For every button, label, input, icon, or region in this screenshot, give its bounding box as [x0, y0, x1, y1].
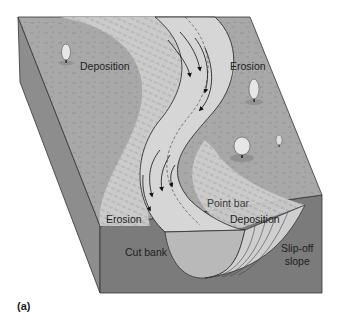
figure-caption: (a)	[17, 300, 30, 312]
label-deposition-lower-right: Deposition	[230, 214, 280, 225]
label-point-bar: Point bar	[207, 198, 249, 209]
block-diagram-svg	[0, 0, 347, 319]
label-slip-off-line2: slope	[281, 256, 314, 267]
label-slip-off-line1: Slip-off	[281, 243, 314, 254]
label-cut-bank: Cut bank	[125, 247, 167, 258]
label-slip-off-slope: Slip-off slope	[281, 243, 314, 266]
label-erosion-lower-left: Erosion	[106, 214, 142, 225]
label-erosion-upper-right: Erosion	[230, 61, 266, 72]
meander-diagram: Deposition Erosion Point bar Erosion Dep…	[0, 0, 347, 319]
label-deposition-upper-left: Deposition	[80, 61, 130, 72]
